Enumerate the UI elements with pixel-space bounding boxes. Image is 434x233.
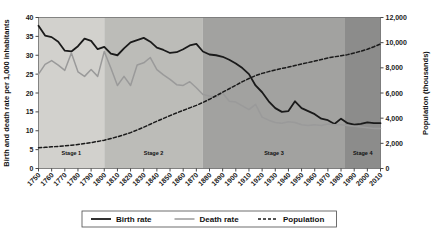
x-tick-label: 1840 (144, 171, 160, 187)
y-tick-label-left: 10 (26, 127, 34, 134)
x-tick-label: 1890 (210, 171, 226, 187)
x-tick-label: 1940 (276, 171, 292, 187)
y-tick-label-right: 8,000 (386, 64, 404, 72)
x-tick-label: 1900 (223, 171, 239, 187)
y-tick-label-right: 0 (386, 165, 390, 172)
x-tick-label: 1760 (39, 171, 55, 187)
y-tick-label-left: 30 (26, 52, 34, 59)
stage-label-1: Stage 1 (62, 150, 82, 156)
y-tick-label-left: 0 (30, 165, 34, 172)
y-axis-left: 0510152025303540 (26, 14, 39, 172)
x-tick-label: 1780 (65, 171, 81, 187)
x-tick-label: 1930 (263, 171, 279, 187)
y-axis-right: 02,0004,0006,0008,00010,00012,000 (381, 14, 408, 172)
x-tick-label: 1750 (26, 171, 42, 187)
x-tick-label: 1770 (52, 171, 68, 187)
stage-label-4: Stage 4 (353, 150, 374, 156)
legend-label-birth-rate: Birth rate (116, 215, 152, 224)
x-tick-label: 2010 (368, 171, 384, 187)
legend-label-population: Population (283, 215, 324, 224)
x-tick-label: 1910 (236, 171, 252, 187)
chart-svg: Stage 1Stage 2Stage 3Stage 4051015202530… (0, 0, 434, 233)
x-axis: 1750176017701780179018001810182018301840… (26, 169, 384, 188)
legend: Birth rateDeath ratePopulation (82, 211, 337, 227)
x-tick-label: 1800 (92, 171, 108, 187)
stage-label-2: Stage 2 (144, 150, 164, 156)
x-tick-label: 1880 (197, 171, 213, 187)
y-tick-label-left: 15 (26, 108, 34, 115)
x-tick-label: 1810 (105, 171, 121, 187)
x-tick-label: 1790 (78, 171, 94, 187)
x-tick-label: 1870 (184, 171, 200, 187)
y-tick-label-right: 12,000 (386, 14, 408, 22)
x-tick-label: 1990 (341, 171, 357, 187)
y-axis-title-right: Population (thousands) (421, 51, 430, 135)
y-tick-label-left: 25 (26, 71, 34, 78)
stage-band-2 (104, 18, 203, 169)
stage-band-4 (345, 18, 381, 169)
demographic-transition-chart: Stage 1Stage 2Stage 3Stage 4051015202530… (0, 0, 434, 233)
y-tick-label-right: 4,000 (386, 115, 404, 123)
x-tick-label: 1920 (249, 171, 265, 187)
x-tick-label: 1970 (315, 171, 331, 187)
y-tick-label-left: 40 (26, 14, 34, 21)
x-tick-label: 1980 (328, 171, 344, 187)
stage-label-3: Stage 3 (264, 150, 284, 156)
y-tick-label-left: 35 (26, 33, 34, 40)
x-tick-label: 1830 (131, 171, 147, 187)
x-tick-label: 1820 (118, 171, 134, 187)
x-tick-label: 1960 (302, 171, 318, 187)
legend-label-death-rate: Death rate (200, 215, 240, 224)
y-tick-label-right: 2,000 (386, 140, 404, 148)
y-axis-title-left: Birth and death rate per 1,000 inhabitan… (2, 19, 11, 167)
y-tick-label-right: 6,000 (386, 90, 404, 98)
y-tick-label-left: 20 (26, 90, 34, 97)
y-tick-label-left: 5 (30, 146, 34, 153)
x-tick-label: 1860 (170, 171, 186, 187)
x-tick-label: 1850 (157, 171, 173, 187)
stage-band-3 (203, 18, 345, 169)
y-tick-label-right: 10,000 (386, 39, 408, 47)
x-tick-label: 2000 (355, 171, 371, 187)
x-tick-label: 1950 (289, 171, 305, 187)
